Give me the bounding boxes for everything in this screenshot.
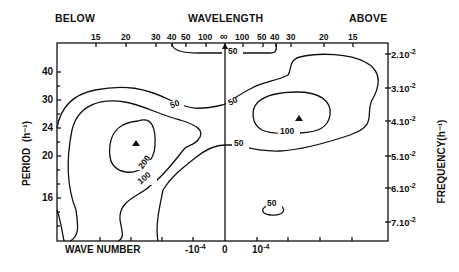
maximum-marker-below (132, 140, 140, 146)
right-tick-exponent: -2 (410, 216, 416, 223)
right-tick-mantissa: 6.10 (391, 183, 410, 194)
right-tick-label: 4.10-2 (391, 115, 416, 127)
top-tick-label-infinity: ∞ (220, 30, 228, 42)
x-axis-title: WAVE NUMBER (65, 244, 140, 255)
bottom-tick-minus-base: -10 (185, 244, 199, 255)
left-tick-label: 20 (42, 150, 53, 161)
left-tick-label: 24 (42, 122, 53, 133)
right-tick-exponent: -2 (410, 182, 416, 189)
right-tick-exponent: -2 (410, 82, 416, 89)
right-tick-mantissa: 7.10 (391, 217, 410, 228)
contour-plot (0, 0, 459, 272)
top-tick-label: 50 (257, 32, 266, 42)
contour-label-100-right: 100 (280, 126, 294, 136)
left-tick-label: 40 (42, 66, 53, 77)
maximum-marker-above (295, 115, 303, 121)
left-tick-label: 30 (42, 94, 53, 105)
top-tick-label: 15 (348, 32, 357, 42)
top-tick-label: 20 (121, 32, 130, 42)
right-tick-mantissa: 2.10 (391, 49, 410, 60)
bottom-tick-plus: 10-4 (252, 243, 269, 255)
contour-50-right-upper (225, 54, 378, 151)
top-tick-label: 100 (198, 32, 212, 42)
top-tick-label: 50 (181, 32, 190, 42)
right-tick-label: 2.10-2 (391, 48, 416, 60)
y-axis-left-title: PERIOD (h⁻¹) (21, 121, 32, 186)
right-tick-mantissa: 4.10 (391, 116, 410, 127)
bottom-tick-plus-base: 10 (252, 244, 263, 255)
right-tick-label: 3.10-2 (391, 82, 416, 94)
right-tick-exponent: -2 (410, 150, 416, 157)
right-tick-label: 5.10-2 (391, 150, 416, 162)
contour-label-50-top: 50 (228, 46, 237, 56)
contour-50-left-outer (57, 87, 225, 128)
top-tick-label: 100 (235, 32, 249, 42)
contour-label-50-small: 50 (267, 198, 276, 208)
right-tick-label: 7.10-2 (391, 216, 416, 228)
contour-label-50-right-lower: 50 (234, 138, 243, 148)
period-unit: (h⁻¹) (21, 121, 32, 142)
right-tick-mantissa: 5.10 (391, 151, 410, 162)
top-tick-label: 30 (286, 32, 295, 42)
plot-frame (57, 43, 388, 241)
frequency-unit: (h⁻¹) (436, 120, 447, 141)
bottom-tick-zero: 0 (222, 244, 228, 255)
right-tick-exponent: -2 (410, 48, 416, 55)
right-tick-label: 6.10-2 (391, 182, 416, 194)
left-tick-label: 16 (42, 192, 53, 203)
top-tick-label: 40 (270, 32, 279, 42)
frequency-label: FREQUENCY (436, 141, 447, 204)
top-tick-label: 40 (167, 32, 176, 42)
bottom-tick-minus-exp: -4 (199, 243, 205, 250)
top-tick-label: 30 (151, 32, 160, 42)
bottom-tick-plus-exp: -4 (263, 243, 269, 250)
top-tick-label: 20 (319, 32, 328, 42)
right-tick-exponent: -2 (410, 115, 416, 122)
y-axis-right-title: FREQUENCY(h⁻¹) (436, 120, 447, 204)
period-label: PERIOD (21, 148, 32, 186)
top-tick-label: 15 (91, 32, 100, 42)
bottom-tick-minus: -10-4 (185, 243, 206, 255)
right-tick-mantissa: 3.10 (391, 83, 410, 94)
